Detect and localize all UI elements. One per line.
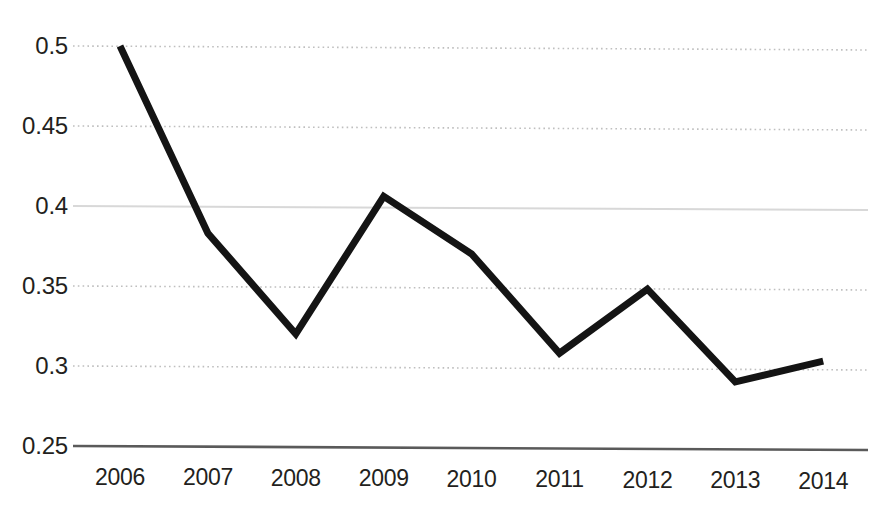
gridline-0.3: [73, 366, 868, 370]
y-tick-label-0.5: 0.5: [35, 34, 68, 58]
chart-plot-area: [0, 0, 891, 509]
x-tick-label-2006: 2006: [75, 466, 165, 489]
x-tick-label-2009: 2009: [339, 467, 429, 490]
y-tick-label-0.45: 0.45: [22, 114, 68, 138]
data-line-series-0: [120, 46, 823, 382]
y-tick-label-0.3: 0.3: [35, 354, 68, 378]
x-axis-baseline: [73, 446, 868, 450]
x-tick-label-2012: 2012: [602, 469, 692, 492]
x-tick-label-2014: 2014: [778, 470, 868, 493]
x-tick-label-2008: 2008: [251, 467, 341, 490]
y-tick-label-0.25: 0.25: [22, 434, 68, 458]
gridline-0.45: [73, 126, 868, 130]
data-series-group: [120, 46, 823, 382]
axis-baseline-line: [73, 446, 868, 450]
x-tick-label-2010: 2010: [427, 468, 517, 491]
x-tick-label-2011: 2011: [515, 468, 605, 491]
line-chart-figure: 0.50.450.40.350.30.25 200620072008200920…: [0, 0, 891, 509]
y-tick-label-0.4: 0.4: [35, 194, 68, 218]
y-tick-label-0.35: 0.35: [22, 274, 68, 298]
gridline-0.35: [73, 286, 868, 290]
x-tick-label-2007: 2007: [163, 466, 253, 489]
gridline-0.5: [73, 46, 868, 50]
x-tick-label-2013: 2013: [690, 469, 780, 492]
